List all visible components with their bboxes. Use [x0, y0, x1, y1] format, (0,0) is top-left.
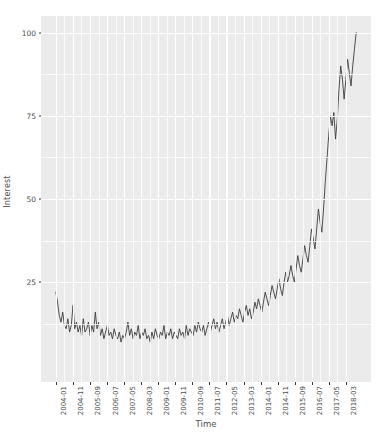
x-axis-tick-labels: 2004-012004-112005-092006-072007-052008-…: [41, 386, 371, 418]
gridline-minor-vertical: [167, 16, 168, 382]
gridline-major-vertical: [90, 16, 91, 382]
x-axis-tick-label: 2014-01: [264, 386, 274, 418]
gridline-major-vertical: [329, 16, 330, 382]
gridline-minor-vertical: [150, 16, 151, 382]
gridline-minor-vertical: [133, 16, 134, 382]
x-axis-tick-label: 2005-09: [93, 386, 103, 418]
gridline-minor-vertical: [201, 16, 202, 382]
gridline-minor-vertical: [184, 16, 185, 382]
gridline-minor-vertical: [269, 16, 270, 382]
gridline-major-vertical: [261, 16, 262, 382]
x-axis-tick-label: 2007-05: [128, 386, 138, 418]
y-axis-tick-label: 100: [22, 28, 36, 37]
x-axis-tick-label: 2018-03: [349, 386, 359, 418]
x-axis-tickmark: [90, 382, 91, 385]
x-axis-tickmark: [312, 382, 313, 385]
gridline-minor-vertical: [303, 16, 304, 382]
x-axis-tickmark: [141, 382, 142, 385]
gridline-minor-vertical: [252, 16, 253, 382]
x-axis-tick-label: 2015-09: [298, 386, 308, 418]
gridline-major-vertical: [192, 16, 193, 382]
gridline-major-vertical: [175, 16, 176, 382]
x-axis-tick-label: 2016-07: [315, 386, 325, 418]
x-axis-tickmark: [73, 382, 74, 385]
gridline-minor-vertical: [99, 16, 100, 382]
x-axis-tickmark: [261, 382, 262, 385]
x-axis-tickmark: [56, 382, 57, 385]
x-axis-tick-label: 2004-11: [76, 386, 86, 418]
gridline-major-vertical: [244, 16, 245, 382]
x-axis-tickmark: [209, 382, 210, 385]
gridline-major-vertical: [312, 16, 313, 382]
x-axis-tickmark: [295, 382, 296, 385]
gridline-minor-vertical: [218, 16, 219, 382]
gridline-minor-vertical: [320, 16, 321, 382]
gridline-minor-vertical: [337, 16, 338, 382]
y-axis-tick-label: 25: [26, 278, 36, 287]
x-axis-tickmark: [346, 382, 347, 385]
gridline-major-vertical: [124, 16, 125, 382]
gridline-major-vertical: [158, 16, 159, 382]
x-axis-tickmark: [107, 382, 108, 385]
x-axis-tick-label: 2017-05: [332, 386, 342, 418]
gridline-major-vertical: [295, 16, 296, 382]
x-axis-tick-label: 2006-07: [111, 386, 121, 418]
gridline-major-vertical: [141, 16, 142, 382]
x-axis-tickmark: [244, 382, 245, 385]
gridline-major-vertical: [209, 16, 210, 382]
x-axis-tick-label: 2004-01: [59, 386, 69, 418]
x-axis-tick-label: 2013-03: [247, 386, 257, 418]
x-axis-tick-label: 2008-03: [145, 386, 155, 418]
gridline-minor-vertical: [286, 16, 287, 382]
plot-panel: [41, 16, 371, 382]
x-axis-tick-label: 2010-09: [196, 386, 206, 418]
x-axis-tick-label: 2014-11: [281, 386, 291, 418]
y-axis-tick-labels: 100755025: [14, 0, 41, 382]
gridline-minor-vertical: [64, 16, 65, 382]
x-axis-tick-label: 2009-11: [179, 386, 189, 418]
gridline-major-vertical: [107, 16, 108, 382]
x-axis-tickmark: [278, 382, 279, 385]
chart-container: Interest 100755025 2004-012004-112005-09…: [0, 0, 381, 437]
y-axis-tick-label: 75: [26, 111, 36, 120]
x-axis-tick-label: 2011-07: [213, 386, 223, 418]
gridline-major-vertical: [226, 16, 227, 382]
gridline-major-vertical: [346, 16, 347, 382]
gridline-major-vertical: [56, 16, 57, 382]
gridline-minor-vertical: [116, 16, 117, 382]
y-axis-tick-label: 50: [26, 195, 36, 204]
gridline-minor-vertical: [235, 16, 236, 382]
gridline-minor-vertical: [81, 16, 82, 382]
x-axis-tickmark: [175, 382, 176, 385]
x-axis-tickmark: [124, 382, 125, 385]
y-axis-title-label: Interest: [3, 175, 12, 207]
x-axis-tickmark: [192, 382, 193, 385]
x-axis-tick-label: 2009-01: [162, 386, 172, 418]
x-axis-tickmark: [158, 382, 159, 385]
gridline-major-vertical: [73, 16, 74, 382]
x-axis-title: Time: [41, 419, 371, 429]
y-axis-title: Interest: [0, 0, 14, 382]
x-axis-tick-label: 2012-05: [230, 386, 240, 418]
x-axis-tickmark: [329, 382, 330, 385]
x-axis-tickmark: [226, 382, 227, 385]
gridline-major-vertical: [278, 16, 279, 382]
